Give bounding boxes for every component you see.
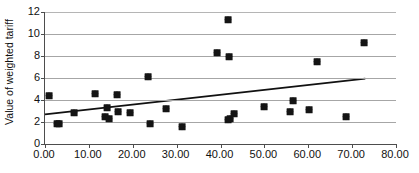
data-point — [224, 16, 232, 24]
x-tick-label: 10.00 — [74, 148, 102, 160]
data-point — [113, 91, 121, 99]
data-point — [286, 108, 294, 116]
gridline-y-6 — [45, 78, 396, 79]
data-point — [45, 92, 53, 100]
y-axis-title-text: Value of weighted tariff — [3, 19, 15, 125]
y-tick-label: 10 — [18, 28, 40, 39]
data-point — [162, 105, 170, 113]
data-point — [290, 97, 298, 105]
data-point — [342, 113, 350, 121]
data-point — [360, 39, 368, 47]
data-point — [225, 53, 233, 61]
gridline-y-12 — [45, 12, 396, 13]
data-point — [114, 108, 122, 116]
y-tick-mark-6 — [41, 78, 45, 79]
x-tick-label: 0.00 — [33, 148, 54, 160]
x-tick-label: 20.00 — [118, 148, 146, 160]
data-point — [230, 110, 238, 118]
data-point — [91, 90, 99, 98]
y-tick-label: 2 — [18, 116, 40, 127]
y-tick-mark-10 — [41, 34, 45, 35]
data-point — [213, 49, 221, 57]
data-point — [55, 120, 63, 128]
data-point — [70, 109, 78, 117]
x-tick-label: 50.00 — [250, 148, 278, 160]
y-tick-mark-2 — [41, 122, 45, 123]
x-axis-tick-labels: 0.0010.0020.0030.0040.0050.0060.0070.008… — [44, 148, 395, 168]
y-tick-label: 4 — [18, 94, 40, 105]
data-point — [178, 123, 186, 131]
gridline-y-2 — [45, 122, 396, 123]
data-point — [305, 107, 313, 115]
data-point — [105, 115, 113, 123]
y-axis-title: Value of weighted tariff — [0, 0, 18, 144]
x-tick-label: 80.00 — [381, 148, 409, 160]
y-axis-tick-labels: 024681012 — [18, 0, 40, 156]
y-tick-mark-8 — [41, 56, 45, 57]
data-point — [103, 104, 111, 112]
gridline-y-10 — [45, 34, 396, 35]
data-point — [313, 58, 321, 66]
plot-area — [44, 12, 396, 145]
x-tick-label: 70.00 — [337, 148, 365, 160]
x-tick-label: 30.00 — [162, 148, 190, 160]
x-tick-label: 40.00 — [206, 148, 234, 160]
gridline-y-8 — [45, 56, 396, 57]
y-tick-label: 12 — [18, 6, 40, 17]
scatter-chart: Value of weighted tariff 024681012 0.001… — [0, 0, 419, 173]
data-point — [144, 74, 152, 82]
y-tick-label: 8 — [18, 50, 40, 61]
gridline-y-4 — [45, 100, 396, 101]
data-point — [261, 103, 269, 111]
y-tick-label: 6 — [18, 72, 40, 83]
data-point — [126, 109, 134, 117]
y-tick-mark-4 — [41, 100, 45, 101]
data-point — [146, 120, 154, 128]
x-tick-label: 60.00 — [293, 148, 321, 160]
y-tick-mark-12 — [41, 12, 45, 13]
